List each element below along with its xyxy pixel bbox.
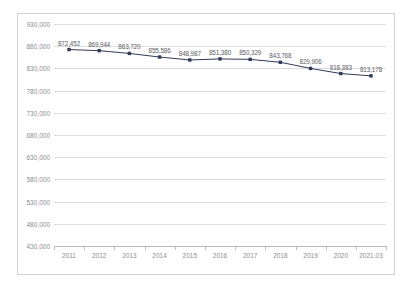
y-axis-tick-label: 580,000 bbox=[4, 176, 50, 183]
x-axis-tick-mark bbox=[356, 246, 357, 250]
x-axis-tick-mark bbox=[386, 246, 387, 250]
y-axis-tick-label: 630,000 bbox=[4, 154, 50, 161]
x-axis-tick-mark bbox=[235, 246, 236, 250]
y-axis-tick-label: 730,000 bbox=[4, 109, 50, 116]
data-point-label: 818,383 bbox=[330, 64, 352, 71]
plot-area: 872,452869,944863,720855,586848,987851,3… bbox=[54, 24, 386, 246]
data-point-label: 869,944 bbox=[88, 41, 110, 48]
line-series bbox=[54, 24, 386, 246]
x-axis-tick-label: 2018 bbox=[273, 252, 287, 259]
y-axis-tick-label: 930,000 bbox=[4, 21, 50, 28]
x-axis-tick-mark bbox=[145, 246, 146, 250]
y-axis-labels: 930,000880,000830,000780,000730,000680,0… bbox=[2, 24, 50, 246]
x-axis-tick-label: 2013 bbox=[122, 252, 136, 259]
x-axis-tick-mark bbox=[175, 246, 176, 250]
y-axis-tick-label: 680,000 bbox=[4, 132, 50, 139]
x-axis-tick-mark bbox=[54, 246, 55, 250]
data-point-label: 829,906 bbox=[300, 58, 322, 65]
y-axis-tick-label: 830,000 bbox=[4, 65, 50, 72]
chart-title bbox=[0, 0, 409, 2]
x-axis-tick-label: 2021.03 bbox=[359, 252, 383, 259]
data-point-marker bbox=[249, 58, 252, 61]
data-point-label: 863,720 bbox=[118, 43, 140, 50]
data-point-label: 813,178 bbox=[360, 66, 382, 73]
chart-card: 930,000880,000830,000780,000730,000680,0… bbox=[0, 0, 409, 298]
data-point-marker bbox=[158, 55, 161, 58]
data-point-label: 855,586 bbox=[149, 47, 171, 54]
data-point-label: 848,987 bbox=[179, 50, 201, 57]
x-axis-tick-mark bbox=[326, 246, 327, 250]
y-axis-tick-label: 780,000 bbox=[4, 87, 50, 94]
data-point-marker bbox=[188, 58, 191, 61]
x-axis-tick-mark bbox=[84, 246, 85, 250]
data-point-marker bbox=[369, 74, 372, 77]
x-axis-tick-mark bbox=[114, 246, 115, 250]
y-axis-tick-label: 880,000 bbox=[4, 43, 50, 50]
y-axis-tick-label: 430,000 bbox=[4, 243, 50, 250]
data-point-marker bbox=[218, 57, 221, 60]
data-point-marker bbox=[339, 72, 342, 75]
x-axis-tick-label: 2011 bbox=[62, 252, 76, 259]
data-point-marker bbox=[67, 48, 70, 51]
data-point-marker bbox=[98, 49, 101, 52]
y-axis-tick-label: 480,000 bbox=[4, 220, 50, 227]
x-axis-tick-label: 2016 bbox=[213, 252, 227, 259]
x-axis-tick-label: 2019 bbox=[303, 252, 317, 259]
x-axis-tick-label: 2012 bbox=[92, 252, 106, 259]
y-axis-tick-label: 530,000 bbox=[4, 198, 50, 205]
x-axis-tick-label: 2020 bbox=[334, 252, 348, 259]
data-point-marker bbox=[309, 67, 312, 70]
x-axis-tick-mark bbox=[296, 246, 297, 250]
x-axis-tick-mark bbox=[205, 246, 206, 250]
x-axis-tick-label: 2017 bbox=[243, 252, 257, 259]
data-point-label: 851,380 bbox=[209, 49, 231, 56]
data-point-label: 872,452 bbox=[58, 40, 80, 47]
data-point-marker bbox=[279, 61, 282, 64]
x-axis-tick-label: 2014 bbox=[152, 252, 166, 259]
x-axis-tick-mark bbox=[265, 246, 266, 250]
data-point-label: 843,768 bbox=[269, 52, 291, 59]
x-axis-line bbox=[54, 246, 386, 247]
x-axis-tick-label: 2015 bbox=[183, 252, 197, 259]
data-point-label: 850,329 bbox=[239, 49, 261, 56]
data-point-marker bbox=[128, 52, 131, 55]
